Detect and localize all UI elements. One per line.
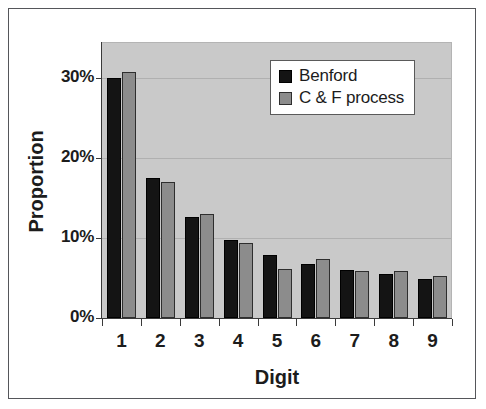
bar-cf-process-digit-9 bbox=[433, 276, 447, 318]
x-tick-6 bbox=[335, 319, 336, 326]
x-tick-7 bbox=[374, 319, 375, 326]
y-axis-title: Proportion bbox=[25, 102, 48, 262]
legend-swatch-benford bbox=[279, 70, 292, 83]
bar-benford-digit-7 bbox=[340, 270, 354, 318]
x-tick-label-6: 6 bbox=[296, 330, 335, 352]
x-tick-label-4: 4 bbox=[219, 330, 258, 352]
gridline-20 bbox=[102, 158, 452, 159]
x-tick-3 bbox=[219, 319, 220, 326]
chart-legend: Benford C & F process bbox=[270, 60, 415, 115]
bar-benford-digit-1 bbox=[107, 78, 121, 318]
plot-area-top-edge bbox=[102, 42, 452, 43]
x-axis-title: Digit bbox=[102, 366, 452, 389]
bar-cf-process-digit-4 bbox=[239, 243, 253, 318]
y-axis-line bbox=[101, 42, 102, 319]
y-tick-30 bbox=[96, 78, 101, 79]
bar-benford-digit-6 bbox=[301, 264, 315, 318]
x-tick-5 bbox=[296, 319, 297, 326]
bar-benford-digit-4 bbox=[224, 240, 238, 318]
bar-cf-process-digit-2 bbox=[161, 182, 175, 318]
y-tick-label-30: 30% bbox=[36, 67, 94, 87]
legend-item-benford: Benford bbox=[279, 65, 404, 87]
bar-benford-digit-8 bbox=[379, 274, 393, 318]
x-tick-4 bbox=[258, 319, 259, 326]
legend-label-cf-process: C & F process bbox=[299, 88, 404, 108]
bar-benford-digit-9 bbox=[418, 279, 432, 318]
bar-benford-digit-5 bbox=[263, 255, 277, 318]
x-tick-label-9: 9 bbox=[413, 330, 452, 352]
x-tick-1 bbox=[141, 319, 142, 326]
bar-cf-process-digit-7 bbox=[355, 271, 369, 318]
x-tick-2 bbox=[180, 319, 181, 326]
bar-cf-process-digit-8 bbox=[394, 271, 408, 318]
x-tick-label-7: 7 bbox=[335, 330, 374, 352]
bar-benford-digit-2 bbox=[146, 178, 160, 318]
x-tick-label-5: 5 bbox=[258, 330, 297, 352]
x-tick-9 bbox=[452, 319, 453, 326]
legend-item-cf-process: C & F process bbox=[279, 87, 404, 109]
chart-figure: 0%10%20%30% Proportion Digit Benford C &… bbox=[0, 0, 486, 409]
bar-cf-process-digit-5 bbox=[278, 269, 292, 318]
bar-benford-digit-3 bbox=[185, 217, 199, 318]
bar-cf-process-digit-1 bbox=[122, 72, 136, 318]
y-tick-0 bbox=[96, 318, 101, 319]
x-tick-label-8: 8 bbox=[374, 330, 413, 352]
x-axis-line bbox=[102, 318, 452, 319]
bar-cf-process-digit-3 bbox=[200, 214, 214, 318]
bar-cf-process-digit-6 bbox=[316, 259, 330, 318]
legend-label-benford: Benford bbox=[299, 66, 357, 86]
x-tick-8 bbox=[413, 319, 414, 326]
plot-area-right-edge bbox=[451, 42, 452, 319]
x-tick-label-2: 2 bbox=[141, 330, 180, 352]
legend-swatch-cf-process bbox=[279, 92, 292, 105]
x-tick-label-1: 1 bbox=[102, 330, 141, 352]
x-tick-label-3: 3 bbox=[180, 330, 219, 352]
y-tick-label-0: 0% bbox=[36, 307, 94, 327]
y-tick-10 bbox=[96, 238, 101, 239]
y-tick-20 bbox=[96, 158, 101, 159]
x-tick-0 bbox=[102, 319, 103, 326]
